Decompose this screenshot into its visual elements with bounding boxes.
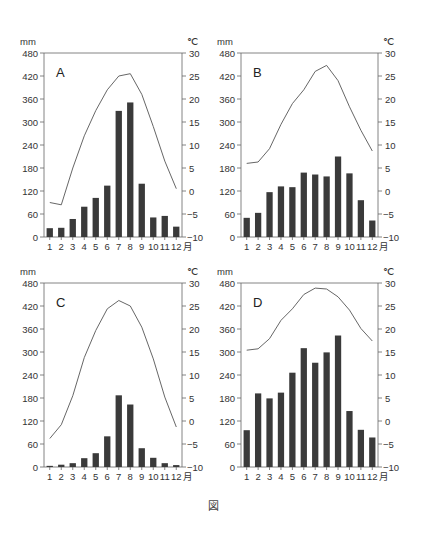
left-tick-label: 120: [219, 416, 235, 427]
precipitation-bar: [278, 186, 284, 237]
left-tick-label: 0: [33, 462, 38, 473]
month-tick-label: 4: [278, 241, 283, 252]
precipitation-bar: [127, 102, 133, 237]
month-tick-label: 4: [82, 471, 87, 482]
left-tick-label: 0: [230, 462, 235, 473]
right-tick-label: 30: [385, 278, 396, 289]
month-tick-label: 8: [128, 241, 133, 252]
month-tick-label: 1: [47, 471, 52, 482]
right-tick-label: 20: [385, 324, 396, 335]
month-tick-label: 12: [367, 471, 378, 482]
precipitation-bar: [255, 213, 261, 237]
right-tick-label: 0: [189, 416, 194, 427]
precipitation-bar: [104, 436, 110, 467]
right-tick-label: 5: [385, 163, 390, 174]
month-tick-label: 2: [59, 241, 64, 252]
precipitation-bar: [93, 453, 99, 467]
right-tick-label: 25: [189, 301, 200, 312]
precipitation-bar: [47, 228, 53, 237]
precipitation-bar: [289, 187, 295, 237]
month-tick-label: 9: [335, 471, 340, 482]
right-tick-label: 10: [385, 140, 396, 151]
month-tick-label: 2: [255, 241, 260, 252]
right-tick-label: −5: [383, 209, 394, 220]
precipitation-bar: [127, 405, 133, 467]
right-tick-label: −5: [383, 439, 394, 450]
left-tick-label: 300: [219, 117, 235, 128]
month-tick-label: 9: [139, 241, 144, 252]
month-tick-label: 6: [301, 471, 306, 482]
precipitation-bar: [335, 336, 341, 467]
precipitation-bar: [346, 173, 352, 237]
month-tick-label: 2: [59, 471, 64, 482]
precipitation-bar: [116, 111, 122, 237]
temperature-line: [50, 301, 177, 439]
left-tick-label: 0: [230, 232, 235, 243]
month-tick-label: 1: [244, 471, 249, 482]
left-tick-label: 60: [224, 209, 235, 220]
temperature-line: [247, 288, 373, 350]
climate-charts-svg: 060120180240300360420480−10−505101520253…: [0, 0, 427, 535]
panel-label: B: [253, 65, 262, 80]
precipitation-bar: [162, 216, 168, 237]
right-tick-label: 10: [385, 370, 396, 381]
month-tick-label: 5: [93, 241, 98, 252]
month-tick-label: 8: [128, 471, 133, 482]
left-tick-label: 180: [219, 393, 235, 404]
left-tick-label: 480: [219, 278, 235, 289]
right-tick-label: 25: [385, 301, 396, 312]
month-tick-label: 7: [313, 241, 318, 252]
month-tick-label: 8: [324, 241, 329, 252]
right-tick-label: 5: [385, 393, 390, 404]
right-tick-label: 20: [385, 94, 396, 105]
precipitation-bar: [369, 437, 375, 467]
month-tick-label: 8: [324, 471, 329, 482]
precipitation-bar: [70, 463, 76, 467]
left-tick-label: 60: [27, 439, 38, 450]
climate-chart-a: 060120180240300360420480−10−505101520253…: [20, 36, 203, 252]
precipitation-bar: [301, 173, 307, 237]
precipitation-bar: [150, 458, 156, 467]
precipitation-bar: [81, 458, 87, 467]
right-tick-label: 0: [189, 186, 194, 197]
right-tick-label: 15: [189, 117, 200, 128]
month-tick-label: 12: [367, 241, 378, 252]
right-tick-label: 15: [189, 347, 200, 358]
precipitation-bar: [173, 465, 179, 467]
month-tick-label: 2: [255, 471, 260, 482]
left-tick-label: 420: [219, 71, 235, 82]
left-tick-label: 300: [22, 347, 38, 358]
x-axis-label: 月: [379, 471, 389, 482]
left-tick-label: 360: [22, 324, 38, 335]
left-tick-label: 360: [22, 94, 38, 105]
left-unit-label: mm: [217, 36, 233, 47]
right-tick-label: −5: [187, 439, 198, 450]
left-tick-label: 60: [27, 209, 38, 220]
month-tick-label: 5: [290, 241, 295, 252]
right-tick-label: 30: [385, 48, 396, 59]
precipitation-bar: [93, 198, 99, 237]
right-tick-label: 0: [385, 186, 390, 197]
month-tick-label: 7: [116, 241, 121, 252]
precipitation-bar: [278, 393, 284, 467]
precipitation-bar: [173, 227, 179, 237]
month-tick-label: 7: [313, 471, 318, 482]
precipitation-bar: [266, 192, 272, 237]
month-tick-label: 3: [267, 241, 272, 252]
precipitation-bar: [255, 393, 261, 467]
precipitation-bar: [162, 463, 168, 467]
precipitation-bar: [335, 157, 341, 238]
month-tick-label: 9: [139, 471, 144, 482]
x-axis-label: 月: [183, 471, 193, 482]
panel-label: D: [253, 295, 262, 310]
precipitation-bar: [266, 398, 272, 467]
month-tick-label: 6: [301, 241, 306, 252]
climate-chart-c: 060120180240300360420480−10−505101520253…: [20, 266, 203, 482]
month-tick-label: 7: [116, 471, 121, 482]
month-tick-label: 3: [70, 241, 75, 252]
right-tick-label: 25: [189, 71, 200, 82]
month-tick-label: 6: [105, 471, 110, 482]
month-tick-label: 3: [267, 471, 272, 482]
month-tick-label: 10: [344, 471, 355, 482]
left-tick-label: 420: [22, 71, 38, 82]
